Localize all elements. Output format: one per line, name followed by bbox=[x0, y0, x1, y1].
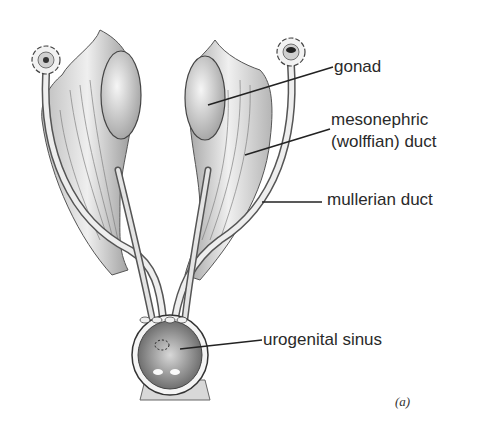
figure-panel-tag: (a) bbox=[395, 394, 410, 410]
right-fimbria bbox=[277, 38, 305, 66]
reproductive-tract-illustration bbox=[0, 0, 496, 428]
label-urogenital-sinus: urogenital sinus bbox=[263, 330, 382, 350]
left-gonad bbox=[101, 51, 141, 139]
urogenital-sinus bbox=[132, 315, 210, 400]
label-gonad: gonad bbox=[334, 57, 381, 77]
label-mullerian-duct: mullerian duct bbox=[327, 190, 433, 210]
left-fimbria bbox=[32, 46, 60, 74]
right-gonad bbox=[185, 56, 225, 140]
label-mesonephric-line2: (wolffian) duct bbox=[331, 132, 437, 152]
anatomy-figure: gonad mesonephric (wolffian) duct muller… bbox=[0, 0, 496, 428]
label-mesonephric-line1: mesonephric bbox=[331, 110, 428, 130]
